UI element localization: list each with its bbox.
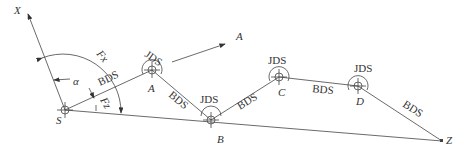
fz-angle-label: Fz [98,94,115,111]
svg-text:JDS: JDS [268,54,286,66]
edge-label-s-a: BDS [96,68,120,88]
svg-text:C: C [278,86,286,98]
svg-text:S: S [56,114,62,126]
svg-text:JDS: JDS [143,48,165,68]
svg-text:Z: Z [446,134,453,146]
edge-label-b-c: BDS [235,90,260,112]
x-axis-line [28,14,65,110]
closing-line-s-z [65,110,442,141]
station-s: S [56,102,73,126]
edge-label-c-d: BDS [312,82,335,96]
fz-indicator-top [89,88,94,98]
station-d: JDS D [348,62,372,107]
svg-text:B: B [217,133,224,145]
fx-angle-label: Fx [94,47,111,64]
alpha-indicator [54,79,70,80]
direction-arrow [172,44,225,62]
station-z: Z [440,134,453,146]
station-c: JDS C [268,54,289,98]
alpha-label: α [73,75,79,87]
traverse-path [65,70,442,141]
svg-text:JDS: JDS [200,93,218,105]
direction-arrow-label: A [235,30,243,42]
x-axis-label: X [13,4,22,16]
svg-text:A: A [147,82,155,94]
edge-label-a-b: BDS [167,88,191,111]
svg-text:D: D [355,95,364,107]
traverse-diagram: X Fx α Fz A S JDS A JDS B JDS C JDS [0,0,464,156]
svg-text:JDS: JDS [354,62,372,74]
